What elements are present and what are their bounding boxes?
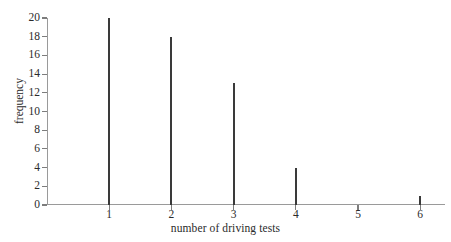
x-tick-label: 2	[161, 208, 181, 220]
bar	[295, 168, 297, 205]
y-tick-label: 20	[16, 12, 40, 24]
bar	[233, 83, 235, 205]
frequency-chart: 02468101214161820 123456 frequency numbe…	[0, 0, 451, 242]
x-tick-label: 5	[348, 208, 368, 220]
y-tick-mark	[42, 111, 47, 112]
y-tick-mark	[42, 148, 47, 149]
bar	[108, 18, 110, 205]
y-tick-mark	[42, 92, 47, 93]
y-tick-mark	[42, 204, 47, 205]
y-tick-mark	[42, 17, 47, 18]
y-axis-line	[47, 18, 48, 205]
y-tick-mark	[42, 36, 47, 37]
y-tick-label: 18	[16, 31, 40, 43]
y-tick-mark	[42, 74, 47, 75]
bar	[170, 37, 172, 205]
y-axis-title: frequency	[13, 56, 25, 146]
x-tick-label: 4	[286, 208, 306, 220]
x-axis-line	[47, 204, 445, 205]
bar	[419, 196, 421, 205]
x-axis-title: number of driving tests	[0, 222, 451, 234]
y-tick-label: 2	[16, 180, 40, 192]
y-tick-mark	[42, 167, 47, 168]
x-tick-label: 1	[99, 208, 119, 220]
y-tick-mark	[42, 186, 47, 187]
x-tick-label: 6	[410, 208, 430, 220]
x-tick-label: 3	[224, 208, 244, 220]
y-tick-mark	[42, 55, 47, 56]
y-tick-label: 4	[16, 162, 40, 174]
y-tick-label: 0	[16, 199, 40, 211]
y-tick-mark	[42, 130, 47, 131]
